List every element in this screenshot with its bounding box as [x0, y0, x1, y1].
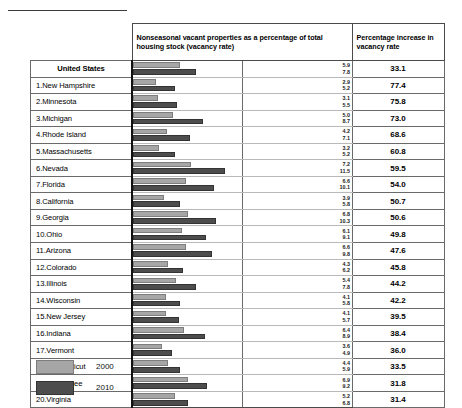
bar-2010 — [133, 185, 214, 191]
row-label: 11.Arizona — [31, 243, 133, 260]
table-row: 6.Nevada7.211.559.5 — [31, 160, 445, 177]
row-label: 15.New Jersey — [31, 309, 133, 326]
value-label-2010: 8.9 — [343, 334, 351, 339]
row-values: 6.99.2 — [242, 375, 352, 392]
value-label-2010: 7.8 — [343, 285, 351, 290]
row-values: 4.45.9 — [242, 358, 352, 375]
row-label: 8.California — [31, 193, 133, 210]
value-label-2010: 8.7 — [343, 119, 351, 124]
row-label: 16.Indiana — [31, 325, 133, 342]
bar-2000 — [133, 62, 180, 68]
value-label-2000: 5.9 — [343, 63, 351, 68]
table-row: 4.Rhode Island4.27.168.6 — [31, 127, 445, 144]
row-label: 6.Nevada — [31, 160, 133, 177]
bar-2010 — [133, 152, 175, 158]
chart-legend: 20002010 — [36, 358, 114, 400]
row-bars — [132, 110, 242, 127]
table-body: United States5.97.833.11.New Hampshire2.… — [31, 61, 445, 408]
bar-2000 — [133, 178, 186, 184]
percentage-increase-value: 45.8 — [352, 259, 444, 276]
bar-2010 — [133, 235, 206, 241]
bar-2000 — [133, 211, 188, 217]
percentage-increase-value: 33.1 — [352, 61, 444, 78]
value-label-2010: 4.9 — [343, 351, 351, 356]
row-bars — [132, 127, 242, 144]
row-values: 5.08.7 — [242, 110, 352, 127]
legend-swatch-2000 — [36, 360, 74, 374]
value-label-2010: 5.2 — [343, 86, 351, 91]
row-values: 6.19.1 — [242, 226, 352, 243]
percentage-increase-value: 44.2 — [352, 276, 444, 293]
value-label-2010: 5.7 — [343, 318, 351, 323]
bar-2000 — [133, 129, 167, 135]
bar-2010 — [133, 119, 203, 125]
row-label: 2.Minnesota — [31, 94, 133, 111]
row-bars — [132, 325, 242, 342]
percentage-increase-value: 31.8 — [352, 375, 444, 392]
table-row: 9.Georgia6.810.350.6 — [31, 209, 445, 226]
row-bars — [132, 143, 242, 160]
row-label: 9.Georgia — [31, 209, 133, 226]
row-bars — [132, 391, 242, 408]
table-row: 8.California3.95.850.7 — [31, 193, 445, 210]
bar-2010 — [133, 251, 212, 257]
row-label: United States — [31, 61, 133, 78]
table-row: 2.Minnesota3.15.575.8 — [31, 94, 445, 111]
row-bars — [132, 226, 242, 243]
row-values: 7.211.5 — [242, 160, 352, 177]
value-label-2010: 7.1 — [343, 136, 351, 141]
bar-2000 — [133, 344, 162, 350]
bar-2000 — [133, 95, 158, 101]
percentage-increase-value: 60.8 — [352, 143, 444, 160]
table-row: 3.Michigan5.08.773.0 — [31, 110, 445, 127]
percentage-increase-value: 33.5 — [352, 358, 444, 375]
row-values: 2.95.2 — [242, 77, 352, 94]
table-row: 12.Colorado4.36.245.8 — [31, 259, 445, 276]
table-row: 14.Wisconsin4.15.842.2 — [31, 292, 445, 309]
bar-2000 — [133, 377, 188, 383]
value-label-2000: 6.8 — [343, 212, 351, 217]
bar-2010 — [133, 102, 177, 108]
row-values: 4.36.2 — [242, 259, 352, 276]
table-row: 16.Indiana6.48.938.4 — [31, 325, 445, 342]
row-bars — [132, 94, 242, 111]
row-label: 5.Massachusetts — [31, 143, 133, 160]
legend-label-2010: 2010 — [96, 383, 114, 392]
percentage-increase-value: 42.2 — [352, 292, 444, 309]
table-row: 11.Arizona6.69.847.6 — [31, 243, 445, 260]
legend-item: 2010 — [36, 379, 114, 396]
row-bars — [132, 342, 242, 359]
bar-2000 — [133, 162, 191, 168]
row-label: 14.Wisconsin — [31, 292, 133, 309]
percentage-increase-value: 77.4 — [352, 77, 444, 94]
bar-2000 — [133, 112, 173, 118]
table-row: 13.Illinois5.47.844.2 — [31, 276, 445, 293]
legend-swatch-2010 — [36, 381, 74, 395]
bar-2000 — [133, 145, 159, 151]
row-values: 6.69.8 — [242, 243, 352, 260]
legend-label-2000: 2000 — [96, 362, 114, 371]
row-bars — [132, 276, 242, 293]
row-bars — [132, 292, 242, 309]
row-values: 3.15.5 — [242, 94, 352, 111]
row-values: 6.610.1 — [242, 176, 352, 193]
table-row: 10.Ohio6.19.149.8 — [31, 226, 445, 243]
percentage-increase-value: 75.8 — [352, 94, 444, 111]
row-label: 7.Florida — [31, 176, 133, 193]
value-label-2010: 9.2 — [343, 384, 351, 389]
row-values: 4.27.1 — [242, 127, 352, 144]
row-label: 12.Colorado — [31, 259, 133, 276]
value-label-2010: 5.2 — [343, 152, 351, 157]
percentage-increase-value: 36.0 — [352, 342, 444, 359]
value-label-2010: 5.5 — [343, 103, 351, 108]
percentage-increase-value: 49.8 — [352, 226, 444, 243]
value-label-2010: 9.1 — [343, 235, 351, 240]
row-bars — [132, 309, 242, 326]
bar-2010 — [133, 69, 196, 75]
bar-2010 — [133, 400, 188, 406]
row-bars — [132, 209, 242, 226]
bar-2010 — [133, 334, 205, 340]
bar-2000 — [133, 79, 156, 85]
row-bars — [132, 61, 242, 78]
row-values: 6.810.3 — [242, 209, 352, 226]
